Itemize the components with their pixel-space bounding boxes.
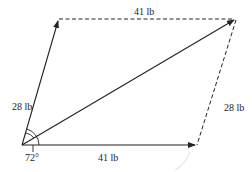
- label-left-side: 28 lb: [12, 101, 32, 112]
- label-bottom-side: 41 lb: [98, 152, 118, 163]
- resultant-vector: [22, 20, 234, 145]
- faint-arc: [175, 152, 190, 170]
- label-angle: 72°: [25, 152, 39, 163]
- parallelogram-diagram: 28 lb 41 lb 28 lb 41 lb 72°: [0, 0, 252, 172]
- angle-arc-inner: [26, 133, 34, 138]
- label-top-side: 41 lb: [134, 6, 154, 17]
- label-right-side: 28 lb: [224, 102, 244, 113]
